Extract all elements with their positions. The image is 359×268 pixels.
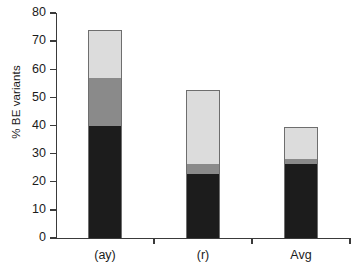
y-tick-label-50: 50 (32, 89, 46, 105)
bar-1-mid-gray-segment (89, 78, 121, 126)
y-tick-10: 10 (50, 209, 56, 210)
x-tick-2 (251, 238, 252, 244)
y-tick-30: 30 (50, 153, 56, 154)
bar-2-dark-segment (187, 174, 219, 238)
x-label-1: (ay) (56, 247, 154, 263)
y-tick-label-0: 0 (39, 229, 46, 245)
bar-1-dark-segment (89, 126, 121, 238)
bar-1-light-gray-segment (89, 31, 121, 78)
x-tick-1 (153, 238, 154, 244)
y-tick-label-30: 30 (32, 145, 46, 161)
x-axis-line (56, 238, 350, 239)
y-tick-label-60: 60 (32, 61, 46, 77)
bar-2 (186, 90, 220, 238)
y-tick-80: 80 (50, 12, 56, 13)
x-tick-3 (349, 238, 350, 244)
bar-3-dark-segment (285, 164, 317, 238)
stacked-bar-chart: % BE variants 01020304050607080 (ay)(r)A… (0, 0, 359, 268)
plot-area: 01020304050607080 (ay)(r)Avg (56, 13, 350, 238)
bar-2-mid-gray-segment (187, 164, 219, 174)
y-tick-label-10: 10 (32, 201, 46, 217)
bar-3-light-gray-segment (285, 128, 317, 159)
y-tick-label-80: 80 (32, 4, 46, 20)
y-tick-label-40: 40 (32, 117, 46, 133)
y-tick-0: 0 (50, 237, 56, 238)
x-label-3: Avg (252, 247, 350, 263)
bar-3 (284, 127, 318, 238)
y-tick-70: 70 (50, 40, 56, 41)
y-axis-line (56, 13, 57, 238)
bar-2-light-gray-segment (187, 91, 219, 164)
y-tick-50: 50 (50, 97, 56, 98)
x-label-2: (r) (154, 247, 252, 263)
y-tick-label-20: 20 (32, 173, 46, 189)
y-tick-40: 40 (50, 125, 56, 126)
bar-1 (88, 30, 122, 238)
y-tick-60: 60 (50, 69, 56, 70)
y-axis-title: % BE variants (10, 42, 22, 162)
y-tick-label-70: 70 (32, 32, 46, 48)
y-tick-20: 20 (50, 181, 56, 182)
